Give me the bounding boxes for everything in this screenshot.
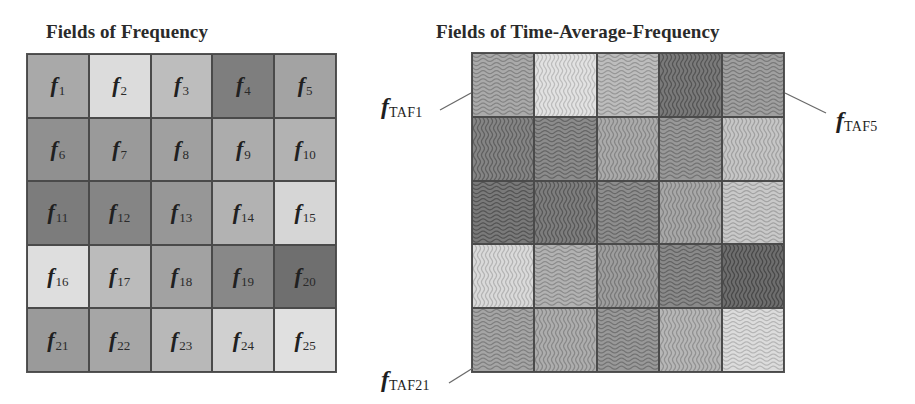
time-average-frequency-cell (722, 53, 784, 117)
frequency-label: f21 (47, 329, 68, 352)
callout-symbol: f (381, 366, 389, 392)
horizontal-wave-pattern-icon (535, 118, 595, 180)
callout-subscript: TAF5 (844, 119, 878, 134)
frequency-cell: f8 (151, 118, 213, 182)
frequency-index: 22 (117, 338, 130, 353)
frequency-index: 8 (182, 147, 189, 162)
frequency-symbol: f (109, 327, 116, 352)
time-average-frequency-cell (534, 181, 596, 245)
frequency-cell: f23 (151, 308, 213, 372)
frequency-label: f17 (109, 265, 130, 288)
callout-subscript: TAF21 (389, 378, 430, 393)
frequency-label: f24 (233, 329, 254, 352)
frequency-symbol: f (236, 136, 243, 161)
frequency-index: 11 (56, 210, 69, 225)
callout-f-taf21: fTAF21 (381, 366, 430, 394)
leader-line-taf21 (449, 368, 473, 383)
frequency-cell: f24 (212, 308, 274, 372)
frequency-cell: f2 (89, 54, 151, 118)
time-average-frequency-cell (597, 53, 659, 117)
time-average-frequency-cell (659, 117, 721, 181)
frequency-label: f5 (298, 74, 313, 97)
frequency-index: 15 (303, 210, 316, 225)
frequency-cell: f15 (274, 181, 336, 245)
frequency-index: 2 (121, 83, 128, 98)
frequency-index: 12 (117, 210, 130, 225)
time-average-frequency-cell (659, 53, 721, 117)
time-average-frequency-cell (534, 244, 596, 308)
frequency-label: f13 (171, 201, 192, 224)
frequency-symbol: f (47, 327, 54, 352)
frequency-symbol: f (294, 263, 301, 288)
fields-of-frequency-title: Fields of Frequency (46, 21, 208, 43)
frequency-label: f4 (236, 74, 251, 97)
horizontal-wave-pattern-icon (598, 54, 658, 116)
time-average-frequency-cell (534, 308, 596, 372)
frequency-symbol: f (171, 199, 178, 224)
frequency-label: f1 (50, 74, 65, 97)
frequency-symbol: f (50, 72, 57, 97)
time-average-frequency-cell (722, 181, 784, 245)
frequency-symbol: f (50, 136, 57, 161)
frequency-label: f14 (233, 201, 254, 224)
time-average-frequency-cell (472, 308, 534, 372)
time-average-frequency-cell (472, 181, 534, 245)
time-average-frequency-cell (597, 117, 659, 181)
frequency-label: f6 (50, 138, 65, 161)
frequency-symbol: f (47, 263, 54, 288)
horizontal-wave-pattern-icon (473, 309, 533, 371)
time-average-frequency-cell (472, 53, 534, 117)
frequency-index: 25 (303, 338, 316, 353)
frequency-field-grid: f1f2f3f4f5f6f7f8f9f10f11f12f13f14f15f16f… (26, 53, 337, 373)
frequency-symbol: f (233, 263, 240, 288)
callout-symbol: f (381, 93, 389, 119)
frequency-symbol: f (233, 199, 240, 224)
frequency-symbol: f (174, 72, 181, 97)
frequency-label: f7 (112, 138, 127, 161)
frequency-cell: f6 (27, 118, 89, 182)
frequency-label: f8 (174, 138, 189, 161)
frequency-cell: f11 (27, 181, 89, 245)
frequency-index: 21 (56, 338, 69, 353)
frequency-label: f19 (233, 265, 254, 288)
horizontal-wave-pattern-icon (660, 118, 720, 180)
vertical-wave-pattern-icon (723, 118, 783, 180)
horizontal-wave-pattern-icon (473, 182, 533, 244)
horizontal-wave-pattern-icon (723, 182, 783, 244)
frequency-cell: f17 (89, 245, 151, 309)
time-average-frequency-cell (597, 244, 659, 308)
frequency-index: 4 (244, 83, 251, 98)
vertical-wave-pattern-icon (723, 245, 783, 307)
frequency-label: f16 (47, 265, 68, 288)
callout-f-taf5: fTAF5 (836, 107, 878, 135)
horizontal-wave-pattern-icon (598, 182, 658, 244)
frequency-label: f18 (171, 265, 192, 288)
frequency-index: 5 (306, 83, 313, 98)
frequency-index: 14 (241, 210, 254, 225)
time-average-frequency-cell (659, 308, 721, 372)
time-average-frequency-cell (722, 308, 784, 372)
leader-line-taf5 (785, 93, 826, 113)
callout-subscript: TAF1 (389, 105, 423, 120)
frequency-index: 6 (59, 147, 66, 162)
frequency-cell: f3 (151, 54, 213, 118)
frequency-cell: f5 (274, 54, 336, 118)
frequency-cell: f13 (151, 181, 213, 245)
frequency-index: 3 (182, 83, 189, 98)
frequency-index: 9 (244, 147, 251, 162)
horizontal-wave-pattern-icon (723, 54, 783, 116)
frequency-index: 1 (59, 83, 66, 98)
frequency-cell: f9 (212, 118, 274, 182)
frequency-index: 19 (241, 274, 254, 289)
frequency-cell: f14 (212, 181, 274, 245)
frequency-index: 10 (303, 147, 316, 162)
callout-symbol: f (836, 107, 844, 133)
frequency-cell: f12 (89, 181, 151, 245)
frequency-index: 13 (179, 210, 192, 225)
frequency-index: 17 (117, 274, 130, 289)
vertical-wave-pattern-icon (660, 54, 720, 116)
frequency-index: 23 (179, 338, 192, 353)
time-average-frequency-cell (472, 244, 534, 308)
frequency-symbol: f (109, 199, 116, 224)
frequency-cell: f10 (274, 118, 336, 182)
